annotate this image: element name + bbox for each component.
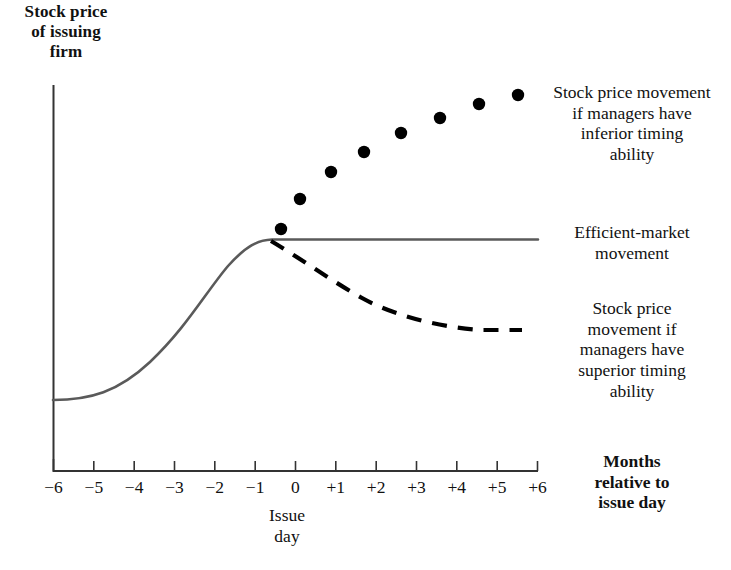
legend-label-inferior-timing: Stock price movement if managers have in… [534,82,730,165]
series-efficient-market-line [53,240,538,401]
data-point-month-6-end [512,89,524,101]
x-axis-tick-label: −4 [114,477,154,498]
issue-day-annotation: Issue day [232,505,342,546]
x-axis-tick-label: −2 [195,477,235,498]
x-axis-tick-label: +1 [316,477,356,498]
series-superior-timing-dashed [271,241,522,330]
x-axis-tick-label: −3 [154,477,194,498]
x-axis-tick-label: 0 [275,477,315,498]
x-axis-tick-label: −1 [235,477,275,498]
legend-label-efficient-market: Efficient-market movement [534,222,730,263]
series-inferior-timing-dots [275,89,524,235]
x-axis-title: Months relative to issue day [534,451,730,513]
data-point-month-5 [434,112,446,124]
y-axis-title: Stock price of issuing firm [0,2,132,62]
data-point-month-0 [275,223,287,235]
data-point-month-3 [358,146,370,158]
x-axis-tick-label: +5 [477,477,517,498]
x-axis-tick-label: −6 [34,477,74,498]
data-point-month-4 [395,127,407,139]
legend-label-superior-timing: Stock price movement if managers have su… [534,298,730,401]
data-point-month-6 [473,98,485,110]
chart-figure: Stock price of issuing firm Stock price … [0,0,731,570]
x-axis-tick-label: −5 [74,477,114,498]
x-axis-tick-label: +4 [437,477,477,498]
x-axis-tick-label: +6 [517,477,557,498]
x-axis-tick-label: +3 [396,477,436,498]
x-axis-tick-label: +2 [356,477,396,498]
data-point-month-1 [294,193,306,205]
data-point-month-2 [325,166,337,178]
x-axis-ticks [54,459,538,471]
